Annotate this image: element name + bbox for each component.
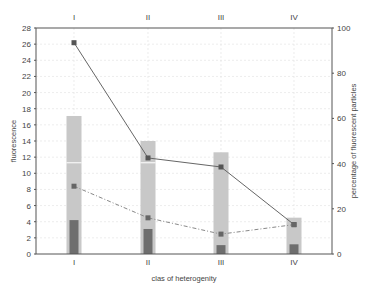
y-axis-label: fluorescence: [9, 120, 18, 163]
y2-tick-label: 20: [337, 205, 346, 214]
x-top-tick-label: I: [73, 13, 75, 22]
bar-dark-I: [70, 220, 79, 254]
marker-solid: [146, 155, 151, 160]
bar-dark-III: [217, 245, 226, 254]
bar-dark-IV: [290, 244, 299, 254]
y2-tick-label: 40: [337, 160, 346, 169]
bar-dark-II: [144, 229, 153, 254]
y-tick-label: 18: [22, 105, 31, 114]
y-tick-label: 2: [27, 234, 32, 243]
marker-dashed: [219, 232, 224, 237]
y2-tick-label: 0: [337, 250, 342, 259]
y2-tick-label: 60: [337, 114, 346, 123]
y-tick-label: 16: [22, 121, 31, 130]
marker-dashed: [292, 222, 297, 227]
x-tick-label: III: [218, 258, 225, 267]
y-tick-label: 26: [22, 40, 31, 49]
x-top-tick-label: IV: [290, 13, 298, 22]
line-solid-percentage: [74, 43, 294, 225]
x-top-tick-label: III: [218, 13, 225, 22]
marker-dashed: [72, 184, 77, 189]
chart: 0246810121416182022242628020406080100III…: [0, 0, 372, 292]
y-tick-label: 22: [22, 72, 31, 81]
y2-tick-label: 80: [337, 69, 346, 78]
y-tick-label: 6: [27, 202, 32, 211]
x-top-tick-label: II: [146, 13, 150, 22]
x-tick-label: IV: [290, 258, 298, 267]
marker-dashed: [146, 215, 151, 220]
y-tick-label: 8: [27, 185, 32, 194]
line-dashed-percentage: [74, 186, 294, 234]
y-tick-label: 14: [22, 137, 31, 146]
marker-solid: [219, 164, 224, 169]
y-tick-label: 20: [22, 89, 31, 98]
y-tick-label: 0: [27, 250, 32, 259]
x-tick-label: I: [73, 258, 75, 267]
y-tick-label: 10: [22, 169, 31, 178]
y2-tick-label: 100: [337, 24, 351, 33]
y-tick-label: 24: [22, 56, 31, 65]
y-tick-label: 28: [22, 24, 31, 33]
y-tick-label: 12: [22, 153, 31, 162]
x-tick-label: II: [146, 258, 150, 267]
marker-solid: [72, 40, 77, 45]
x-axis-label: clas of heterogenity: [151, 274, 216, 283]
y-tick-label: 4: [27, 218, 32, 227]
y2-axis-label: percentage of fluorescent particles: [349, 83, 358, 198]
